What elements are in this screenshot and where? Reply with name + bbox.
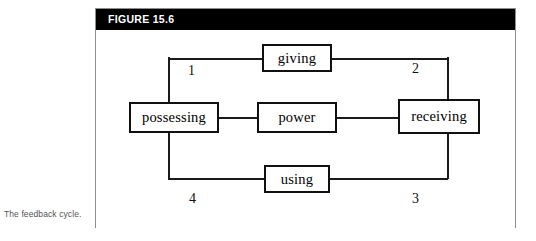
connector-possessing-to-giving [168,58,263,60]
node-using[interactable]: using [264,165,330,193]
node-receiving-label: receiving [411,108,467,125]
node-power-label: power [278,109,315,126]
connector-using-to-receiving [328,178,448,180]
segment-number-3: 3 [412,191,419,207]
figure-caption: The feedback cycle. [4,209,96,220]
node-possessing-label: possessing [142,109,206,126]
node-giving[interactable]: giving [262,44,332,72]
node-receiving[interactable]: receiving [398,99,480,134]
connector-possessing-to-using [168,178,265,180]
segment-number-1: 1 [188,63,195,79]
connector-left-riser-bottom [168,131,170,179]
node-giving-label: giving [278,50,316,67]
node-possessing[interactable]: possessing [129,102,219,133]
node-power[interactable]: power [257,102,337,133]
segment-number-4: 4 [189,191,196,207]
figure-body: giving possessing power receiving using … [96,30,515,228]
figure-frame: FIGURE 15.6 [95,8,516,228]
connector-left-riser-top [168,57,170,104]
feedback-cycle-diagram: giving possessing power receiving using … [96,30,515,228]
connector-right-riser-top [447,57,449,101]
connector-power-to-receiving [335,117,400,119]
figure-page: The feedback cycle. FIGURE 15.6 [0,0,536,241]
connector-giving-to-receiving [331,58,448,60]
node-using-label: using [281,171,313,188]
figure-header-bar: FIGURE 15.6 [96,9,515,30]
figure-number-label: FIGURE 15.6 [108,13,174,25]
connector-possessing-to-power [217,117,259,119]
segment-number-2: 2 [412,61,419,77]
connector-right-riser-bottom [447,132,449,179]
